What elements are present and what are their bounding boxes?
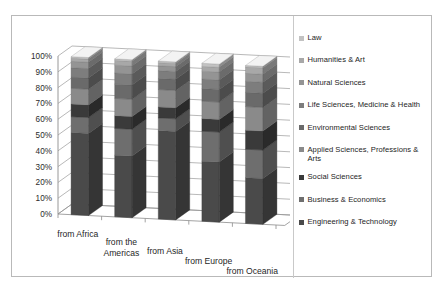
legend-swatch-icon xyxy=(299,175,304,180)
legend-item-label: Business & Economics xyxy=(308,195,386,204)
legend-swatch-icon xyxy=(299,80,304,85)
legend-item[interactable]: Environmental Sciences xyxy=(299,123,431,132)
legend-swatch-icon xyxy=(299,220,304,225)
plot-area: 100%90%80%70%60%50%40%30%20%10%0% from A… xyxy=(12,16,290,278)
legend-item-label: Natural Sciences xyxy=(308,78,366,87)
legend-item[interactable]: Humanities & Art xyxy=(299,55,431,64)
legend-item[interactable]: Law xyxy=(299,33,431,42)
legend-item-label: Environmental Sciences xyxy=(308,123,391,132)
legend-item[interactable]: Natural Sciences xyxy=(299,78,431,87)
x-axis-category-label: from Europe xyxy=(183,256,235,267)
legend-item-label: Life Sciences, Medicine & Health xyxy=(308,100,421,109)
legend-item-label: Engineering & Technology xyxy=(308,217,397,226)
x-axis-category-label: from Oceania xyxy=(226,266,278,277)
legend-swatch-icon xyxy=(299,36,304,41)
legend-swatch-icon xyxy=(299,197,304,202)
legend-item[interactable]: Business & Economics xyxy=(299,195,431,204)
legend-item[interactable]: Engineering & Technology xyxy=(299,217,431,226)
legend-item-label: Applied Sciences, Professions & Arts xyxy=(308,145,432,163)
cut-off-title-text xyxy=(18,0,438,8)
legend-item[interactable]: Life Sciences, Medicine & Health xyxy=(299,100,431,109)
legend-swatch-icon xyxy=(299,147,304,152)
x-axis: from Africafrom the Americasfrom Asiafro… xyxy=(12,16,290,278)
legend-item-label: Social Sciences xyxy=(308,172,362,181)
legend-swatch-icon xyxy=(299,58,304,63)
legend-item[interactable]: Social Sciences xyxy=(299,172,431,181)
legend-swatch-icon xyxy=(299,125,304,130)
chart-frame: 100%90%80%70%60%50%40%30%20%10%0% from A… xyxy=(11,15,432,277)
legend-item[interactable]: Applied Sciences, Professions & Arts xyxy=(299,145,431,163)
legend-swatch-icon xyxy=(299,103,304,108)
x-axis-category-label: from Asia xyxy=(139,246,191,257)
chart-legend: LawHumanities & ArtNatural SciencesLife … xyxy=(293,16,433,278)
legend-item-label: Law xyxy=(308,33,322,42)
legend-item-label: Humanities & Art xyxy=(308,55,365,64)
